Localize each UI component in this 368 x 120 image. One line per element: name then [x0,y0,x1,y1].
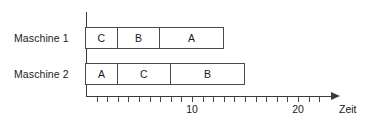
x-axis-tick [287,97,288,102]
x-axis-tick-label: 10 [186,103,198,115]
x-axis-tick [181,97,182,102]
x-axis-tick [224,97,225,102]
x-axis-tick [298,97,299,102]
x-axis-tick [160,97,161,102]
task-block: B [170,63,245,85]
x-axis-tick [118,97,119,102]
task-block: C [117,63,171,85]
x-axis-tick [107,97,108,102]
x-axis-tick [256,97,257,102]
row-label-machine-2: Maschine 2 [14,68,84,80]
row-label-machine-1: Maschine 1 [14,32,84,44]
x-axis-tick [245,97,246,102]
x-axis-tick [192,97,193,102]
x-axis-tick [97,97,98,102]
x-axis-tick [139,97,140,102]
task-block: C [85,27,118,49]
x-axis-tick [309,97,310,102]
x-axis-tick [266,97,267,102]
x-axis-tick [319,97,320,102]
x-axis-arrow-icon [331,92,340,100]
x-axis-tick [213,97,214,102]
x-axis-tick [150,97,151,102]
x-axis-tick [171,97,172,102]
x-axis-title: Zeit [339,103,357,115]
x-axis-tick [203,97,204,102]
x-axis-tick [234,97,235,102]
gantt-chart: Maschine 1 Maschine 2 1020 Zeit CBA ACB [0,0,368,120]
x-axis-tick [277,97,278,102]
task-block: A [159,27,224,49]
x-axis-tick-label: 20 [292,103,304,115]
x-axis-line [86,96,333,97]
task-block: A [85,63,118,85]
task-block: B [117,27,160,49]
x-axis-tick [128,97,129,102]
